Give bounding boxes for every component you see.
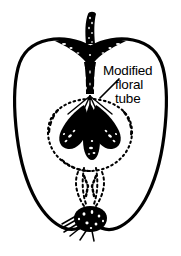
floral-tube-label: Modified floral tube [103, 64, 177, 107]
apple-diagram-figure: Modified floral tube [0, 0, 181, 256]
floral-tube-label-line-1: Modified [103, 64, 177, 78]
apple-section-drawing [0, 0, 181, 256]
floral-tube-label-line-3: tube [115, 92, 177, 106]
floral-tube-label-line-2: floral [115, 78, 177, 92]
